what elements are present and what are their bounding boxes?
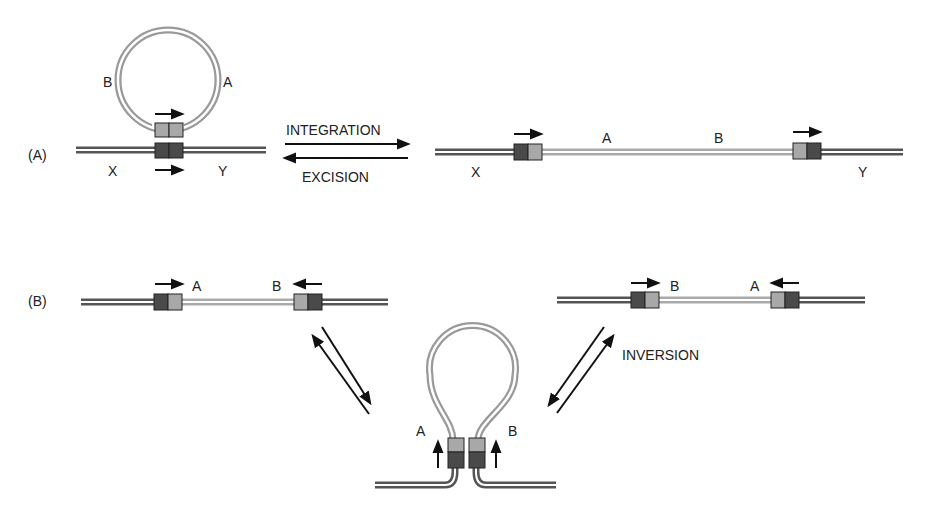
- integrated-site-right: [793, 143, 821, 159]
- panel-a: (A) B A X Y INTEGRATION: [28, 30, 903, 185]
- loop-label-a: A: [416, 423, 426, 439]
- inversion-label: INVERSION: [622, 347, 699, 363]
- excision-label: EXCISION: [302, 169, 369, 185]
- integration-label: INTEGRATION: [286, 122, 381, 138]
- panel-b: (B) A B: [28, 278, 865, 485]
- circle-label-b: B: [103, 74, 112, 90]
- right-seg-label-a: A: [750, 278, 760, 294]
- reverse-arrow-icon: [313, 336, 369, 414]
- integrated-label-b: B: [714, 130, 723, 146]
- left-seg-label-b: B: [272, 278, 281, 294]
- flank-y-label: Y: [218, 163, 228, 179]
- forward-arrow-icon: [549, 327, 604, 405]
- integrated-flank-y: Y: [858, 164, 868, 180]
- forward-arrow-icon: [322, 327, 370, 403]
- circle-recombination-site: [155, 123, 183, 137]
- linear-dna-right: [557, 292, 865, 308]
- circle-label-a: A: [223, 74, 233, 90]
- panel-a-label: (A): [28, 147, 47, 163]
- linear-dna-left: [81, 294, 388, 310]
- chromosome-recombination-site: [155, 143, 183, 158]
- integrated-site-left: [514, 144, 542, 160]
- integrated-flank-x: X: [471, 164, 481, 180]
- right-seg-label-b: B: [670, 278, 679, 294]
- recombination-diagram: (A) B A X Y INTEGRATION: [0, 0, 950, 510]
- panel-b-label: (B): [28, 293, 47, 309]
- left-seg-label-a: A: [192, 278, 202, 294]
- loop-label-b: B: [508, 423, 517, 439]
- reverse-arrow-icon: [557, 336, 613, 413]
- loop-intermediate-dna: [375, 325, 556, 485]
- integrated-label-a: A: [602, 130, 612, 146]
- flank-x-label: X: [108, 163, 118, 179]
